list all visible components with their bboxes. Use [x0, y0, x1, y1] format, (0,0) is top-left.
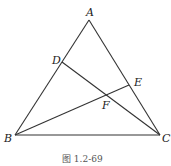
segment-be — [15, 85, 129, 135]
figure-caption: 图 1.2-69 — [62, 154, 103, 164]
segment-ac — [89, 20, 160, 135]
label-b: B — [3, 132, 12, 145]
label-d: D — [51, 54, 61, 67]
geometry-figure: A B C D E F 图 1.2-69 — [0, 0, 171, 166]
label-e: E — [133, 76, 142, 89]
segment-dc — [62, 62, 160, 135]
label-c: C — [162, 132, 171, 145]
triangle-diagram: A B C D E F 图 1.2-69 — [0, 0, 171, 166]
segment-ab — [15, 20, 89, 135]
label-f: F — [101, 99, 110, 112]
label-a: A — [85, 6, 94, 19]
